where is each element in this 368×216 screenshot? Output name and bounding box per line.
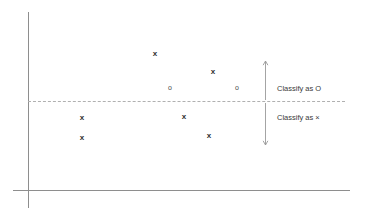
decision-boundary-line <box>28 101 345 102</box>
data-point-x: x <box>80 114 84 122</box>
data-point-x: x <box>182 113 186 121</box>
annotation-label-classify-as-x: Classify as × <box>277 113 320 123</box>
data-point-x: x <box>80 134 84 142</box>
annotation-label-classify-as-o: Classify as O <box>277 84 321 94</box>
data-point-o: o <box>235 84 239 92</box>
data-point-x: x <box>211 68 215 76</box>
data-point-o: o <box>168 84 172 92</box>
x-axis <box>13 190 350 191</box>
classification-diagram: xxxxxxoo Classify as OClassify as × <box>0 0 368 216</box>
data-point-x: x <box>207 132 211 140</box>
y-axis <box>28 12 29 208</box>
data-point-x: x <box>153 50 157 58</box>
arrow-up-icon <box>261 61 270 100</box>
arrow-down-icon <box>261 103 270 145</box>
